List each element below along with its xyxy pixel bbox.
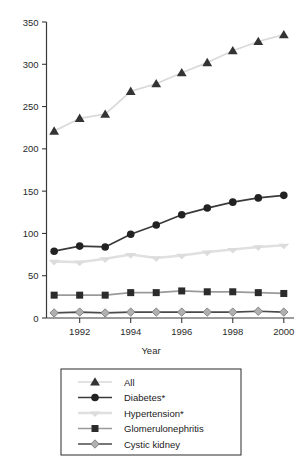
data-point-circle — [254, 194, 262, 202]
data-point-diamond — [229, 308, 237, 316]
data-point-diamond — [91, 440, 99, 448]
data-point-square — [255, 289, 262, 296]
series-all — [49, 30, 288, 135]
line-chart: 050100150200250300350 199219941996199820… — [0, 0, 301, 459]
series-line — [54, 195, 284, 251]
x-axis-tick-label: 1998 — [222, 326, 243, 337]
legend-item-all[interactable]: All — [78, 377, 135, 388]
data-point-diamond — [127, 308, 135, 316]
series-line — [54, 291, 284, 295]
data-point-square — [51, 292, 58, 299]
y-axis-tick-label: 250 — [23, 101, 39, 112]
data-point-circle — [152, 221, 160, 229]
data-point-square — [229, 288, 236, 295]
data-point-circle — [50, 247, 58, 255]
data-point-circle — [101, 243, 109, 251]
data-point-square — [76, 292, 83, 299]
data-point-diamond — [280, 308, 288, 316]
x-axis-tick-label: 2000 — [273, 326, 294, 337]
data-point-circle — [91, 394, 99, 402]
series-layer — [49, 30, 290, 317]
data-point-diamond — [178, 308, 186, 316]
y-axis-tick-label: 150 — [23, 186, 39, 197]
data-point-square — [178, 287, 185, 294]
x-axis: 19921994199619982000 — [47, 318, 295, 337]
legend-item-label: Glomerulonephritis — [124, 423, 204, 434]
series-cystic-kidney — [50, 307, 288, 317]
legend-item-cystic-kidney[interactable]: Cystic kidney — [78, 439, 180, 450]
x-axis-tick-label: 1994 — [120, 326, 141, 337]
y-axis-tick-label: 300 — [23, 59, 39, 70]
y-axis-tick-label: 200 — [23, 143, 39, 154]
legend-item-diabetes-[interactable]: Diabetes* — [78, 392, 165, 403]
legend-item-hypertension-[interactable]: Hypertension* — [78, 408, 184, 419]
data-point-square — [127, 289, 134, 296]
data-point-square — [153, 289, 160, 296]
series-line — [54, 245, 284, 262]
y-axis-tick-label: 50 — [28, 270, 39, 281]
legend-item-glomerulonephritis[interactable]: Glomerulonephritis — [78, 423, 204, 434]
data-point-diamond — [152, 308, 160, 316]
data-point-diamond — [203, 308, 211, 316]
legend-item-label: Diabetes* — [124, 392, 165, 403]
data-point-diamond — [50, 309, 58, 317]
data-point-circle — [127, 230, 135, 238]
y-axis-tick-label: 100 — [23, 228, 39, 239]
data-point-square — [280, 290, 287, 297]
data-point-circle — [229, 198, 237, 206]
data-point-diamond — [254, 307, 262, 315]
x-axis-tick-label: 1992 — [69, 326, 90, 337]
data-point-circle — [203, 204, 211, 212]
data-point-circle — [178, 211, 186, 219]
series-diabetes- — [50, 192, 287, 255]
data-point-diamond — [75, 308, 83, 316]
y-axis-tick-label: 0 — [33, 313, 38, 324]
legend-item-label: Cystic kidney — [124, 439, 180, 450]
series-line — [54, 311, 284, 313]
data-point-square — [102, 292, 109, 299]
data-point-cross — [151, 256, 162, 262]
y-axis-tick-label: 350 — [23, 17, 39, 28]
chart-container: 050100150200250300350 199219941996199820… — [0, 0, 301, 459]
data-point-diamond — [101, 309, 109, 317]
data-point-square — [92, 425, 99, 432]
x-axis-tick-label: 1996 — [171, 326, 192, 337]
series-line — [54, 35, 284, 131]
x-axis-title: Year — [141, 345, 160, 356]
data-point-circle — [76, 242, 84, 250]
y-axis: 050100150200250300350 — [23, 17, 47, 324]
data-point-triangle — [202, 58, 212, 66]
data-point-square — [204, 288, 211, 295]
legend-item-label: Hypertension* — [124, 408, 184, 419]
legend-item-label: All — [124, 377, 135, 388]
data-point-triangle — [49, 126, 59, 134]
data-point-cross — [74, 261, 85, 267]
data-point-triangle — [279, 30, 289, 38]
data-point-circle — [280, 192, 288, 200]
series-glomerulonephritis — [51, 287, 288, 298]
legend: AllDiabetes*Hypertension*Glomerulonephri… — [61, 369, 241, 455]
